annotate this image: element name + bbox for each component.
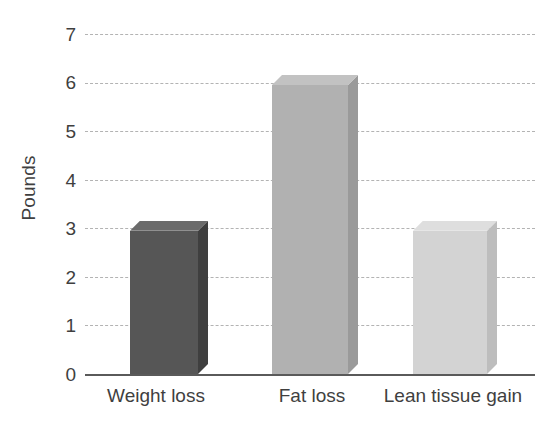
bar-front-face-1 bbox=[272, 85, 348, 374]
y-tick-label-4: 4 bbox=[48, 171, 76, 190]
bar-top-face-1 bbox=[272, 75, 358, 85]
bar-side-face-0 bbox=[198, 221, 208, 374]
x-tick-label-2: Lean tissue gain bbox=[343, 386, 558, 407]
x-axis-line bbox=[85, 374, 535, 376]
y-axis-tick-labels: 7 6 5 4 3 2 1 0 bbox=[48, 0, 76, 433]
bar-2[interactable] bbox=[413, 221, 497, 374]
bar-side-face-2 bbox=[487, 221, 497, 374]
bar-0[interactable] bbox=[130, 221, 208, 374]
y-tick-label-3: 3 bbox=[48, 219, 76, 238]
y-tick-label-0: 0 bbox=[48, 365, 76, 384]
bar-top-face-2 bbox=[413, 221, 497, 231]
gridline-7 bbox=[85, 34, 535, 35]
y-axis-title: Pounds bbox=[18, 128, 40, 248]
y-tick-label-6: 6 bbox=[48, 73, 76, 92]
bar-front-face-2 bbox=[413, 231, 487, 374]
y-tick-label-5: 5 bbox=[48, 122, 76, 141]
bar-1[interactable] bbox=[272, 75, 358, 374]
y-tick-label-2: 2 bbox=[48, 268, 76, 287]
bar-chart: Pounds 7 6 5 4 3 2 1 0 Weight lossFat lo… bbox=[0, 0, 558, 433]
bar-front-face-0 bbox=[130, 231, 198, 374]
bar-top-face-0 bbox=[130, 221, 208, 231]
y-tick-label-1: 1 bbox=[48, 316, 76, 335]
y-tick-label-7: 7 bbox=[48, 25, 76, 44]
bar-side-face-1 bbox=[348, 75, 358, 374]
